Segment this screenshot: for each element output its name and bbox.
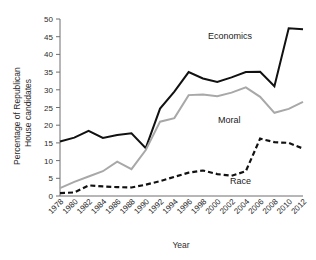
series-label-economics: Economics [208,31,253,41]
y-tick-label: 15 [44,139,53,148]
y-tick-label: 25 [44,104,53,113]
y-tick-label: 5 [49,174,54,183]
y-tick-label: 0 [49,192,54,201]
line-chart: Percentage of Republican House candidate… [0,0,316,260]
chart-container: Percentage of Republican House candidate… [0,0,316,260]
y-tick-label: 45 [44,33,53,42]
x-axis: 1978198019821984198619881990199219941996… [46,197,308,216]
series-line-race [60,139,303,194]
y-tick-label: 10 [44,157,53,166]
series-label-race: Race [230,176,251,186]
y-tick-label: 50 [44,15,53,24]
y-axis-title-line1: Percentage of Republican [12,67,22,165]
x-tick-label: 2012 [289,197,308,216]
y-axis: 05101520253035404550 [44,15,60,201]
y-tick-label: 35 [44,68,53,77]
y-axis-title-line2: House candidates [23,79,33,147]
y-axis-title: Percentage of Republican House candidate… [12,67,33,165]
y-tick-label: 20 [44,121,53,130]
series-line-moral [60,87,303,188]
series-layer [60,28,303,193]
series-line-economics [60,28,303,148]
y-tick-label: 40 [44,50,53,59]
x-axis-title: Year [172,240,189,250]
series-label-moral: Moral [218,115,241,125]
y-tick-label: 30 [44,86,53,95]
